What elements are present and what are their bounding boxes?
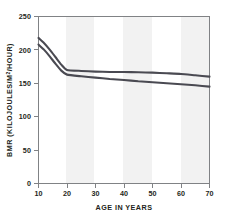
svg-text:BMR (KILOJOULES/M2/HOUR): BMR (KILOJOULES/M2/HOUR) (5, 43, 14, 157)
y-tick-label-0: 0 (27, 179, 31, 188)
chart-canvas: 0 50 100 150 200 250 10 20 30 40 50 60 7… (0, 0, 226, 217)
x-tick-label-40: 40 (120, 189, 128, 198)
x-tick-label-50: 50 (148, 189, 156, 198)
y-axis-title-tail: /HOUR) (5, 43, 14, 71)
background-band (181, 16, 210, 183)
background-band (123, 16, 152, 183)
bmr-vs-age-chart: 0 50 100 150 200 250 10 20 30 40 50 60 7… (0, 0, 226, 217)
x-tick-label-60: 60 (177, 189, 185, 198)
y-tick-label-50: 50 (23, 146, 31, 155)
plot-background (38, 16, 210, 183)
y-tick-label-250: 250 (19, 12, 31, 21)
background-band (66, 16, 94, 183)
x-tick-label-70: 70 (205, 189, 213, 198)
x-axis-tick-labels: 10 20 30 40 50 60 70 (34, 189, 213, 198)
y-tick-label-150: 150 (19, 79, 31, 88)
y-axis-tick-labels: 0 50 100 150 200 250 (19, 12, 31, 188)
y-tick-label-100: 100 (19, 112, 31, 121)
y-tick-label-200: 200 (19, 46, 31, 55)
y-axis-ticks (34, 17, 39, 184)
x-tick-label-10: 10 (34, 189, 42, 198)
y-axis-title-main: BMR (KILOJOULES/M (5, 75, 14, 157)
x-tick-label-20: 20 (63, 189, 71, 198)
x-axis-title: AGE IN YEARS (96, 203, 153, 212)
x-tick-label-30: 30 (91, 189, 99, 198)
y-axis-title-group: BMR (KILOJOULES/M2/HOUR) (5, 43, 14, 157)
x-axis-ticks (39, 184, 210, 189)
